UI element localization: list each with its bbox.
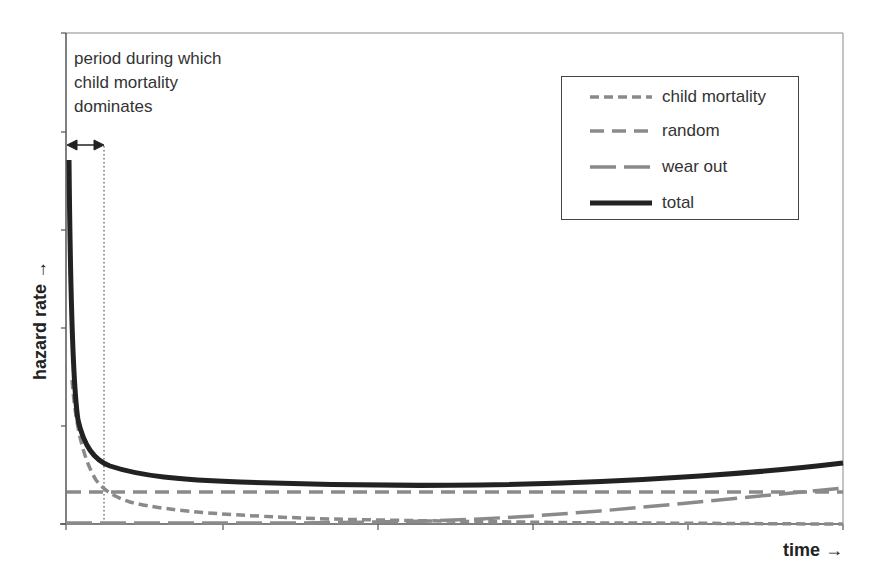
annotation-line-2: child mortality — [74, 71, 294, 95]
annotation-line-1: period during which — [74, 47, 294, 71]
x-axis-label: time → — [783, 540, 843, 561]
legend-item-random: random — [562, 119, 720, 143]
legend-label: random — [662, 121, 720, 141]
legend-label: child mortality — [662, 87, 766, 107]
y-axis-label: hazard rate → — [30, 261, 51, 380]
legend-item-child-mortality: child mortality — [562, 85, 766, 109]
short-dash-line-icon — [590, 92, 652, 102]
legend-label: total — [662, 193, 694, 213]
solid-line-icon — [590, 198, 652, 208]
legend: child mortality random wear out total — [561, 76, 799, 220]
dash-line-icon — [590, 126, 652, 136]
period-double-arrow — [67, 140, 104, 150]
series-child-mortality — [72, 380, 843, 524]
legend-label: wear out — [662, 157, 727, 177]
annotation-line-3: dominates — [74, 95, 294, 119]
legend-item-total: total — [562, 191, 694, 215]
period-annotation: period during which child mortality domi… — [74, 47, 294, 119]
long-dash-line-icon — [590, 162, 652, 172]
legend-item-wear-out: wear out — [562, 155, 727, 179]
